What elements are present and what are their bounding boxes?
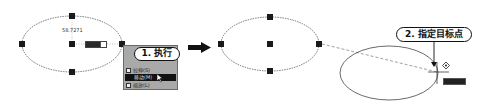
step2-callout: 2. 指定目标点 <box>396 27 472 42</box>
grip-right-quadrant[interactable] <box>316 41 322 47</box>
menu-item-move[interactable]: 移动(M) <box>125 74 176 81</box>
rubber-band-line <box>322 44 437 72</box>
dimension-value: 58.7271 <box>62 27 83 33</box>
grip-center[interactable] <box>69 41 75 47</box>
stretch-icon <box>126 68 131 73</box>
cad-grip-move-illustration: 58.7271 拉伸(S) 移动(M) 缩放(L) 1. 执行 2. 指定目标点 <box>0 0 494 105</box>
preview-ellipse <box>340 46 438 100</box>
menu-item-label: 拉伸(S) <box>133 67 150 73</box>
step1-callout: 1. 执行 <box>134 47 180 61</box>
grip-top-quadrant[interactable] <box>69 13 75 19</box>
dynamic-input-caret <box>100 42 106 47</box>
coordinate-tooltip <box>443 78 466 85</box>
scale-icon <box>126 83 131 88</box>
grip-bottom-quadrant[interactable] <box>267 68 273 74</box>
menu-item-stretch[interactable]: 拉伸(S) <box>125 67 176 74</box>
dynamic-input-field[interactable] <box>85 41 107 48</box>
grip-left-quadrant[interactable] <box>218 41 224 47</box>
grip-bottom-quadrant[interactable] <box>69 69 75 75</box>
grip-top-quadrant[interactable] <box>267 14 273 20</box>
menu-item-label: 缩放(L) <box>133 82 150 88</box>
menu-item-scale[interactable]: 缩放(L) <box>125 82 176 89</box>
mouse-pointer-icon <box>157 74 163 83</box>
grip-left-quadrant[interactable] <box>19 41 25 47</box>
move-cursor-icon <box>443 62 450 69</box>
menu-item-label: 移动(M) <box>134 74 152 80</box>
transition-arrow-icon <box>188 42 211 53</box>
step2-pointer-arrow <box>431 42 437 67</box>
grip-center[interactable] <box>267 41 273 47</box>
